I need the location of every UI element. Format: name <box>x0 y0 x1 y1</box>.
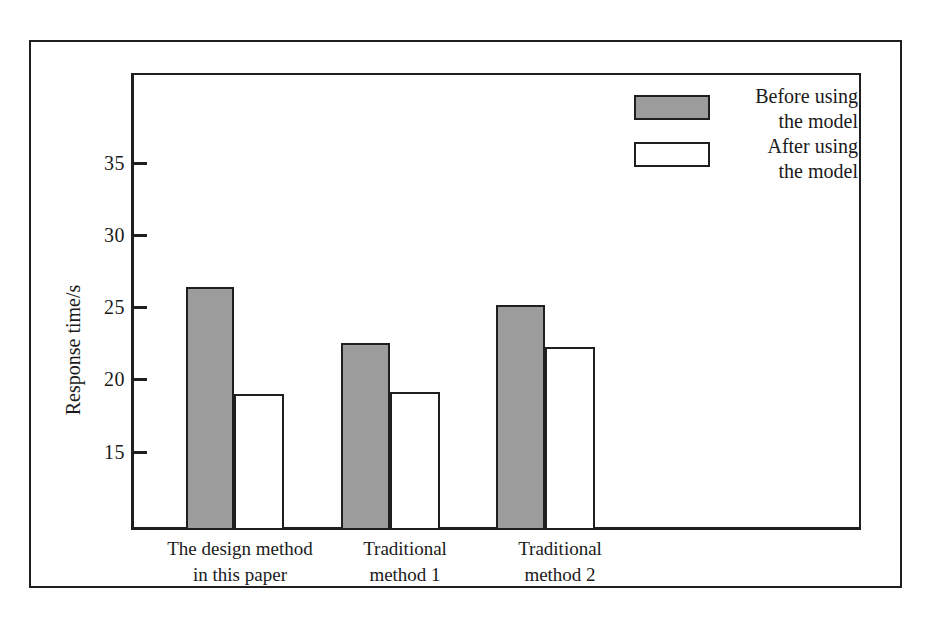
legend-label-before-line1: Before using <box>720 84 858 109</box>
bar-before-group3 <box>496 305 545 530</box>
legend-label-after-line2: the model <box>720 159 858 184</box>
legend-label-after-line1: After using <box>720 134 858 159</box>
x-label-group3: Traditional method 2 <box>460 536 660 588</box>
y-tick-label-35: 35 <box>85 153 125 173</box>
bar-chart: 35 30 25 20 15 Response time/s The desig… <box>0 0 932 618</box>
x-label-group3-line2: method 2 <box>460 562 660 588</box>
bar-before-group2 <box>341 343 390 530</box>
y-tick-15 <box>134 451 147 454</box>
legend-label-after: After using the model <box>720 134 858 184</box>
y-tick-label-20: 20 <box>85 369 125 389</box>
y-tick-30 <box>134 234 147 237</box>
x-label-group3-line1: Traditional <box>460 536 660 562</box>
bar-before-group1 <box>186 287 234 530</box>
y-axis-title-text: Response time/s <box>62 250 85 450</box>
y-tick-label-30: 30 <box>85 225 125 245</box>
legend-label-before-line2: the model <box>720 109 858 134</box>
y-tick-35 <box>134 162 147 165</box>
bar-after-group3 <box>545 347 595 530</box>
y-tick-25 <box>134 306 147 309</box>
legend-swatch-before <box>634 95 710 120</box>
legend-label-before: Before using the model <box>720 84 858 134</box>
y-tick-label-25: 25 <box>85 297 125 317</box>
bar-after-group1 <box>234 394 284 530</box>
legend-swatch-after <box>634 142 710 167</box>
y-tick-20 <box>134 378 147 381</box>
y-tick-label-15: 15 <box>85 442 125 462</box>
bar-after-group2 <box>390 392 440 530</box>
legend: Before using the model After using the m… <box>620 80 858 190</box>
y-axis-title: Response time/s <box>40 50 63 250</box>
